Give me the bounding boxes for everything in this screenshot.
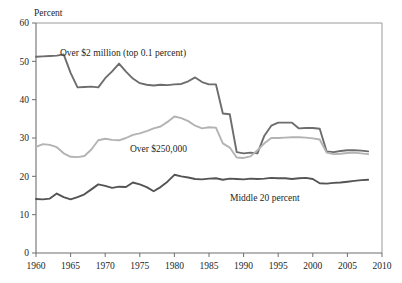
y-tick-label: 10	[20, 210, 30, 220]
series-line-2	[36, 175, 368, 200]
series-line-1	[36, 117, 368, 158]
series-annotation-label: Over $2 million (top 0.1 percent)	[60, 48, 186, 59]
y-axis-label: Percent	[34, 8, 63, 18]
series-annotation-label: Middle 20 percent	[230, 193, 300, 203]
x-tick-label: 1995	[269, 261, 288, 271]
y-tick-label: 60	[20, 18, 30, 28]
chart-container: 0102030405060 19601965197019751980198519…	[0, 0, 402, 283]
series-annotation-label: Over $250,000	[130, 144, 187, 154]
x-tick-label: 2010	[373, 261, 392, 271]
series-annotations: Over $2 million (top 0.1 percent)Over $2…	[60, 48, 300, 203]
x-tick-label: 2000	[303, 261, 322, 271]
percent-line-chart: 0102030405060 19601965197019751980198519…	[0, 0, 402, 283]
y-tick-label: 30	[20, 133, 30, 143]
x-axis-ticks: 1960196519701975198019851990199520002005…	[27, 253, 392, 271]
x-tick-label: 2005	[338, 261, 357, 271]
x-tick-label: 1965	[61, 261, 80, 271]
y-tick-label: 50	[20, 57, 30, 67]
x-tick-label: 1970	[96, 261, 115, 271]
y-tick-label: 20	[20, 172, 30, 182]
y-tick-label: 40	[20, 95, 30, 105]
y-tick-label: 0	[24, 248, 29, 258]
x-tick-label: 1975	[130, 261, 149, 271]
y-axis-ticks: 0102030405060	[20, 18, 37, 258]
x-tick-label: 1985	[200, 261, 219, 271]
x-tick-label: 1990	[234, 261, 253, 271]
x-tick-label: 1980	[165, 261, 184, 271]
series-lines	[36, 54, 368, 199]
x-tick-label: 1960	[27, 261, 46, 271]
